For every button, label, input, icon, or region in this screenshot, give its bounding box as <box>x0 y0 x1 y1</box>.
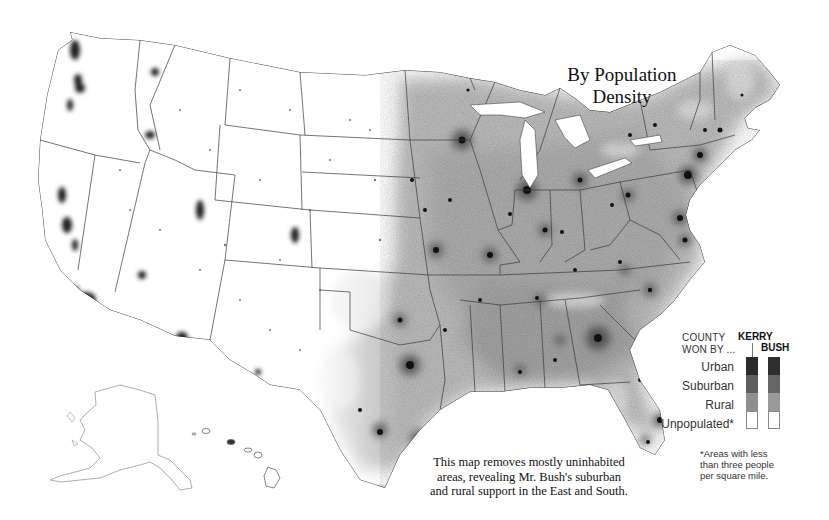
swatch-kerry-rural <box>746 393 758 411</box>
caption-line-2: areas, revealing Mr. Bush's suburban <box>404 470 654 485</box>
legend-column-bush: BUSH <box>761 342 789 353</box>
footnote-line-2: than three people <box>700 459 810 470</box>
map-caption: This map removes mostly uninhabited area… <box>404 455 654 499</box>
legend: COUNTY WON BY ... KERRY BUSH Urban Subur… <box>672 326 822 438</box>
swatch-bush-rural <box>768 393 780 411</box>
legend-kerry-leader-line <box>752 343 753 357</box>
legend-row-unpopulated: Unpopulated* <box>661 417 734 431</box>
swatch-kerry-unpopulated <box>746 411 758 429</box>
swatch-bush-unpopulated <box>768 411 780 429</box>
legend-row-suburban: Suburban <box>682 379 734 393</box>
swatch-bush-urban <box>768 357 780 375</box>
legend-column-kerry: KERRY <box>738 331 773 342</box>
legend-heading-line-1: COUNTY <box>682 332 725 344</box>
alaska-outline <box>50 385 192 490</box>
map-title-line-2: Density <box>560 86 684 108</box>
legend-heading-line-2: WON BY ... <box>682 344 736 356</box>
footnote-line-1: *Areas with less <box>700 448 810 459</box>
legend-row-rural: Rural <box>705 398 734 412</box>
swatch-bush-suburban <box>768 375 780 393</box>
footnote-line-3: per square mile. <box>700 470 810 481</box>
legend-kerry-swatches <box>746 357 758 429</box>
legend-footnote: *Areas with less than three people per s… <box>700 448 810 481</box>
legend-bush-swatches <box>768 357 780 429</box>
map-title: By Population Density <box>560 64 684 108</box>
swatch-kerry-suburban <box>746 375 758 393</box>
us-population-density-map <box>0 0 829 520</box>
legend-row-urban: Urban <box>701 360 734 374</box>
map-title-line-1: By Population <box>560 64 684 86</box>
swatch-kerry-urban <box>746 357 758 375</box>
caption-line-3: and rural support in the East and South. <box>404 484 654 499</box>
hawaii-islands <box>192 429 280 489</box>
caption-line-1: This map removes mostly uninhabited <box>404 455 654 470</box>
